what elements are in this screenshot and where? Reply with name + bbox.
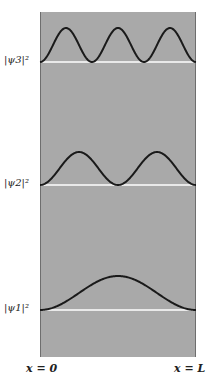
psi3-label: |ψ3|² [4, 54, 29, 65]
psi3-density-curve [40, 28, 196, 62]
probability-curves [0, 0, 213, 381]
psi2-density-curve [40, 152, 196, 185]
psi2-label: |ψ2|² [4, 177, 29, 188]
x-zero-label: x = 0 [26, 362, 57, 375]
x-L-label: x = L [174, 362, 205, 375]
psi1-density-curve [40, 276, 196, 310]
psi1-label: |ψ1|² [4, 302, 29, 313]
